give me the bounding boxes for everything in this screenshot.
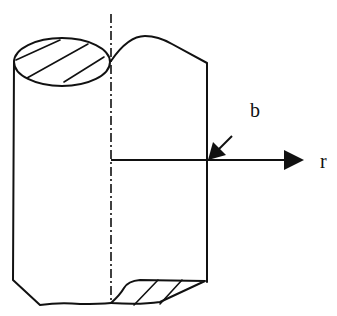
left-edge xyxy=(13,62,111,305)
cylinder-diagram xyxy=(0,0,337,316)
radial-arrowhead-icon xyxy=(284,150,304,170)
bottom-cross-section xyxy=(111,280,205,304)
radius-pointer-line xyxy=(218,136,232,150)
radius-label: b xyxy=(250,100,260,120)
top-hatching xyxy=(16,40,104,82)
radial-axis-label: r xyxy=(320,151,327,171)
bottom-hatching xyxy=(134,280,182,305)
